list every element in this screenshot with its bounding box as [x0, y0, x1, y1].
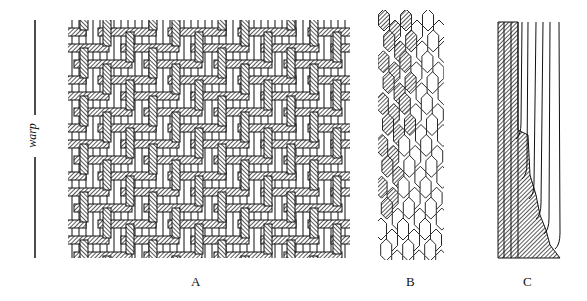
panel-b-label: B	[406, 274, 415, 290]
panel-a-weave	[28, 0, 389, 286]
warp-axis-label: warp	[25, 123, 40, 148]
panel-c-label: C	[523, 274, 532, 290]
panel-a-label: A	[191, 274, 200, 290]
weave-figure	[0, 0, 587, 301]
panel-c-fibres	[498, 22, 560, 258]
panel-b-hexagons	[376, 9, 450, 272]
